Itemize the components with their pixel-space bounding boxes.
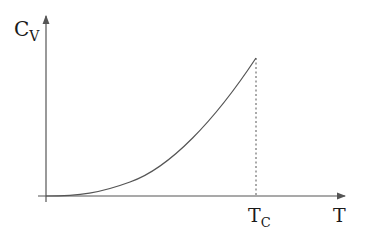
tc-label: TC [248,204,271,230]
y-axis-label: CV [14,17,40,44]
cv-curve [46,58,256,196]
cv-vs-t-diagram: CV TC T [0,0,365,243]
x-axis-label: T [333,204,346,226]
